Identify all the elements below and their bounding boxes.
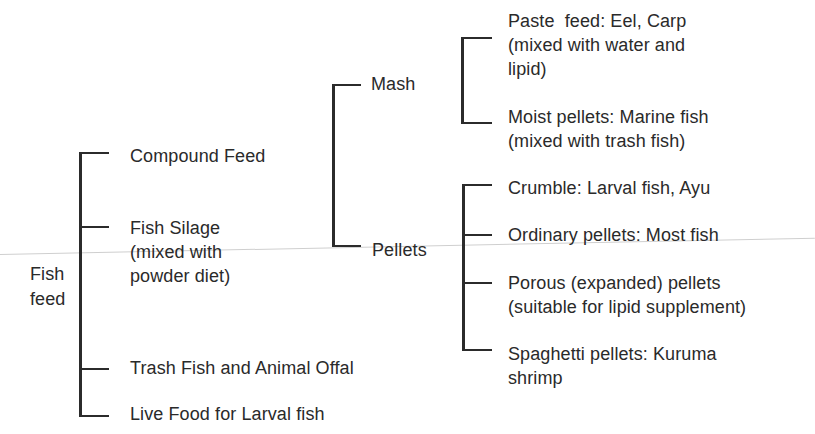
node-mash: Mash: [371, 73, 415, 95]
connector-spaghetti-pellets: [462, 349, 492, 351]
node-compound-feed: Compound Feed: [130, 145, 265, 167]
node-porous-pellets: Porous (expanded) pellets (suitable for …: [508, 271, 746, 319]
connector-paste-feed: [461, 37, 492, 39]
moist-pellets-line1: Moist pellets: Marine fish: [508, 105, 709, 129]
connector-ordinary-pellets: [462, 234, 492, 236]
pellets-bracket-vertical: [462, 184, 465, 351]
node-paste-feed: Paste feed: Eel, Carp (mixed with water …: [508, 9, 686, 81]
fish-silage-line2: (mixed with: [130, 240, 230, 264]
node-fish-silage: Fish Silage (mixed with powder diet): [130, 216, 230, 288]
paste-feed-line3: lipid): [508, 57, 686, 81]
level1-bracket-vertical: [79, 152, 82, 417]
node-live-food-larval-fish: Live Food for Larval fish: [130, 403, 325, 425]
connector-fish-silage: [79, 226, 109, 228]
porous-pellets-line1: Porous (expanded) pellets: [508, 271, 746, 295]
paste-feed-line2: (mixed with water and: [508, 33, 686, 57]
connector-pellets: [332, 245, 361, 247]
connector-compound-feed: [79, 152, 109, 154]
fish-silage-line3: powder diet): [130, 264, 230, 288]
connector-mash: [332, 84, 361, 86]
node-ordinary-pellets: Ordinary pellets: Most fish: [508, 224, 719, 246]
node-trash-fish-animal-offal: Trash Fish and Animal Offal: [130, 357, 354, 379]
moist-pellets-line2: (mixed with trash fish): [508, 129, 709, 153]
compound-bracket-vertical: [332, 84, 335, 247]
spaghetti-pellets-line2: shrimp: [508, 366, 717, 390]
root-label-line2: feed: [30, 287, 65, 312]
root-label-line1: Fish: [30, 262, 65, 287]
node-moist-pellets: Moist pellets: Marine fish (mixed with t…: [508, 105, 709, 153]
node-spaghetti-pellets: Spaghetti pellets: Kuruma shrimp: [508, 342, 717, 390]
connector-crumble: [462, 184, 492, 186]
paste-feed-line1: Paste feed: Eel, Carp: [508, 9, 686, 33]
node-pellets: Pellets: [372, 239, 427, 261]
connector-trash-fish: [79, 368, 109, 370]
connector-porous-pellets: [462, 282, 492, 284]
root-node-fish-feed: Fish feed: [30, 262, 65, 312]
connector-live-food: [79, 415, 109, 417]
porous-pellets-line2: (suitable for lipid supplement): [508, 295, 746, 319]
spaghetti-pellets-line1: Spaghetti pellets: Kuruma: [508, 342, 717, 366]
node-crumble: Crumble: Larval fish, Ayu: [508, 177, 710, 199]
connector-moist-pellets: [461, 122, 492, 124]
mash-bracket-vertical: [461, 37, 464, 124]
fish-silage-line1: Fish Silage: [130, 216, 230, 240]
